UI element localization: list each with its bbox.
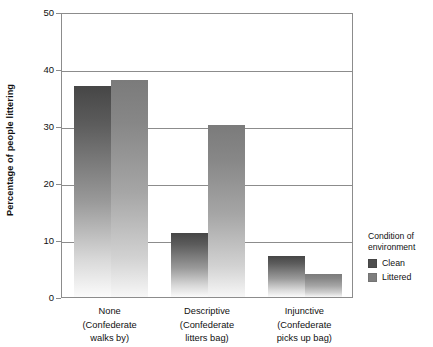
legend-label-clean: Clean [382, 258, 405, 268]
x-category-label-injunctive: Injunctive(Confederatepicks up bag) [254, 305, 354, 346]
plot-area [61, 13, 353, 298]
y-tick-label-0: 0 [18, 292, 54, 303]
bar-injunctive-littered [305, 274, 342, 297]
y-tick-label-10: 10 [18, 235, 54, 246]
legend-item-clean: Clean [368, 258, 433, 268]
bar-none-clean [74, 86, 111, 297]
x-label-line-2: (Confederate [60, 319, 160, 333]
x-label-line-3: picks up bag) [254, 332, 354, 346]
legend-swatch-clean-icon [368, 259, 377, 268]
x-label-line-2: (Confederate [157, 319, 257, 333]
legend-label-littered: Littered [382, 272, 411, 282]
y-tick-label-40: 40 [18, 64, 54, 75]
y-tick-mark-0 [56, 298, 61, 299]
legend-swatch-littered-icon [368, 273, 377, 282]
x-label-line-1: Injunctive [254, 305, 354, 319]
bar-none-littered [111, 80, 148, 297]
legend-title: Condition of environment [368, 231, 433, 253]
y-axis-title-text: Percentage of people littering [5, 84, 15, 216]
bar-injunctive-clean [268, 256, 305, 297]
bar-chart-figure: Percentage of people littering 010203040… [0, 0, 433, 347]
y-tick-label-50: 50 [18, 7, 54, 18]
x-category-label-descriptive: Descriptive(Confederatelitters bag) [157, 305, 257, 346]
gridline-40 [62, 71, 352, 72]
legend-title-line-2: environment [368, 242, 415, 252]
x-label-line-1: None [60, 305, 160, 319]
x-label-line-3: litters bag) [157, 332, 257, 346]
legend-title-line-1: Condition of [368, 231, 414, 241]
y-tick-label-30: 30 [18, 121, 54, 132]
x-category-label-none: None(Confederatewalks by) [60, 305, 160, 346]
x-label-line-2: (Confederate [254, 319, 354, 333]
x-label-line-3: walks by) [60, 332, 160, 346]
legend-item-littered: Littered [368, 272, 433, 282]
legend: Condition of environment Clean Littered [368, 231, 433, 286]
y-tick-label-20: 20 [18, 178, 54, 189]
x-label-line-1: Descriptive [157, 305, 257, 319]
y-axis-title: Percentage of people littering [0, 0, 20, 300]
bar-descriptive-littered [208, 125, 245, 297]
bar-descriptive-clean [171, 233, 208, 297]
